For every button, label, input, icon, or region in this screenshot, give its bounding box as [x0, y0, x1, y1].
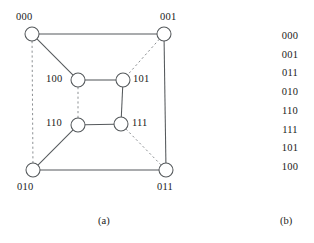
gray-code-item: 000	[268, 27, 312, 46]
node-label-000: 000	[16, 11, 32, 22]
figure-caption-b: (b)	[280, 215, 292, 227]
node-label-101: 101	[133, 73, 149, 84]
node-label-010: 010	[17, 181, 33, 192]
graph-node-101[interactable]	[116, 73, 130, 87]
edge-110-010	[38, 130, 73, 165]
graph-node-000[interactable]	[25, 27, 39, 41]
edge-000-100	[37, 39, 73, 75]
graph-node-001[interactable]	[157, 27, 171, 41]
gray-code-item: 011	[268, 64, 312, 83]
edge-110-111	[85, 124, 114, 125]
figure-container: 000001100101110111010011 (a) 00000101101…	[0, 0, 314, 243]
graph-node-110[interactable]	[71, 118, 85, 132]
figure-caption-a: (a)	[98, 215, 110, 227]
edges-layer	[32, 34, 166, 170]
edge-001-101	[128, 39, 160, 75]
gray-code-item: 101	[268, 139, 312, 158]
edge-111-011	[126, 129, 161, 165]
gray-code-item: 110	[268, 102, 312, 121]
hypercube-graph-svg	[0, 0, 200, 200]
gray-code-item: 001	[268, 46, 312, 65]
graph-node-111[interactable]	[114, 117, 128, 131]
node-label-111: 111	[132, 117, 148, 128]
node-label-100: 100	[46, 73, 62, 84]
gray-code-item: 100	[268, 158, 312, 177]
graph-node-011[interactable]	[159, 163, 173, 177]
graph-node-010[interactable]	[26, 163, 40, 177]
node-label-011: 011	[157, 181, 173, 192]
edge-001-011	[164, 41, 166, 163]
gray-code-item: 010	[268, 83, 312, 102]
edge-000-010	[32, 41, 33, 163]
gray-code-item: 111	[268, 121, 312, 140]
node-label-001: 001	[160, 11, 176, 22]
graph-node-100[interactable]	[71, 73, 85, 87]
edge-101-111	[121, 87, 122, 117]
node-label-110: 110	[46, 117, 62, 128]
gray-code-list: 000001011010110111101100	[268, 27, 312, 177]
